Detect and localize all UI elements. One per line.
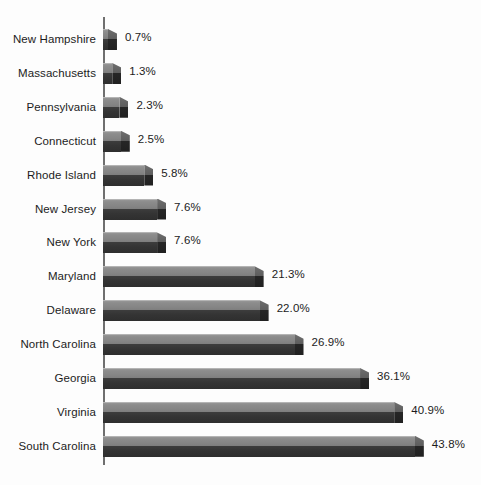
bar-row: South Carolina43.8% xyxy=(0,429,481,463)
category-label: Pennsylvania xyxy=(0,90,96,124)
bar-end-cap xyxy=(157,232,166,253)
bar-highlight xyxy=(103,63,112,64)
bar-value-label: 43.8% xyxy=(432,438,465,450)
bar-value-label: 7.6% xyxy=(174,234,201,246)
bar-highlight xyxy=(103,402,394,403)
bar-body xyxy=(103,97,119,118)
category-label: New Jersey xyxy=(0,192,96,226)
bar-end-cap xyxy=(295,334,304,355)
bar-body xyxy=(103,300,260,321)
bar-end-cap xyxy=(255,266,264,287)
category-label: New Hampshire xyxy=(0,22,96,56)
bar-end-cap xyxy=(415,436,424,457)
category-label: Delaware xyxy=(0,293,96,327)
bar xyxy=(103,29,108,50)
bar-row: New Jersey7.6% xyxy=(0,192,481,226)
bar-highlight xyxy=(103,334,295,335)
bar-body xyxy=(103,165,144,186)
bar-row: Georgia36.1% xyxy=(0,361,481,395)
category-label: Maryland xyxy=(0,259,96,293)
bar-row: Pennsylvania2.3% xyxy=(0,90,481,124)
bar-row: New Hampshire0.7% xyxy=(0,22,481,56)
bar-body xyxy=(103,199,157,220)
bar-end-cap xyxy=(108,29,117,50)
bar-body xyxy=(103,402,394,423)
bar xyxy=(103,402,394,423)
bar-end-cap xyxy=(112,63,121,84)
bar-body xyxy=(103,334,295,355)
bar-body xyxy=(103,232,157,253)
bar-value-label: 22.0% xyxy=(277,302,310,314)
bar-highlight xyxy=(103,436,415,437)
bar-value-label: 36.1% xyxy=(377,370,410,382)
bar-highlight xyxy=(103,266,255,267)
bar xyxy=(103,436,415,457)
bar-end-cap xyxy=(121,131,130,152)
bar-highlight xyxy=(103,232,157,233)
bar xyxy=(103,368,360,389)
category-label: Connecticut xyxy=(0,124,96,158)
bar-row: Rhode Island5.8% xyxy=(0,158,481,192)
bar xyxy=(103,63,112,84)
bar-end-cap xyxy=(260,300,269,321)
bar-value-label: 7.6% xyxy=(174,201,201,213)
category-label: North Carolina xyxy=(0,327,96,361)
bar-end-cap xyxy=(119,97,128,118)
category-label: Georgia xyxy=(0,361,96,395)
bar xyxy=(103,199,157,220)
bar-end-cap xyxy=(144,165,153,186)
bar-row: North Carolina26.9% xyxy=(0,327,481,361)
bar-value-label: 5.8% xyxy=(161,167,188,179)
bar-body xyxy=(103,266,255,287)
bar xyxy=(103,165,144,186)
bar-body xyxy=(103,131,121,152)
bar xyxy=(103,131,121,152)
bar-highlight xyxy=(103,97,119,98)
bar-value-label: 2.5% xyxy=(138,133,165,145)
bar-value-label: 26.9% xyxy=(312,336,345,348)
bar-highlight xyxy=(103,29,108,30)
bar-row: New York7.6% xyxy=(0,225,481,259)
bar-end-cap xyxy=(394,402,403,423)
bar xyxy=(103,300,260,321)
bar-row: Connecticut2.5% xyxy=(0,124,481,158)
bar-value-label: 2.3% xyxy=(136,99,163,111)
bar-value-label: 1.3% xyxy=(129,65,156,77)
bar-highlight xyxy=(103,199,157,200)
bar-end-cap xyxy=(360,368,369,389)
category-label: Rhode Island xyxy=(0,158,96,192)
bar-highlight xyxy=(103,368,360,369)
bar xyxy=(103,232,157,253)
bar-highlight xyxy=(103,300,260,301)
bar-highlight xyxy=(103,131,121,132)
bar-row: Maryland21.3% xyxy=(0,259,481,293)
bar-value-label: 0.7% xyxy=(125,31,152,43)
bar-row: Delaware22.0% xyxy=(0,293,481,327)
bar-row: Virginia40.9% xyxy=(0,395,481,429)
bar xyxy=(103,266,255,287)
bar xyxy=(103,334,295,355)
bar-body xyxy=(103,63,112,84)
bar-chart: New Hampshire0.7%Massachusetts1.3%Pennsy… xyxy=(0,0,481,485)
bar-highlight xyxy=(103,165,144,166)
category-label: New York xyxy=(0,225,96,259)
category-label: Virginia xyxy=(0,395,96,429)
bar-body xyxy=(103,368,360,389)
bar-body xyxy=(103,29,108,50)
bar-value-label: 40.9% xyxy=(411,404,444,416)
category-label: South Carolina xyxy=(0,429,96,463)
bar-body xyxy=(103,436,415,457)
bar-value-label: 21.3% xyxy=(272,268,305,280)
bar-row: Massachusetts1.3% xyxy=(0,56,481,90)
bar xyxy=(103,97,119,118)
category-label: Massachusetts xyxy=(0,56,96,90)
bar-end-cap xyxy=(157,199,166,220)
